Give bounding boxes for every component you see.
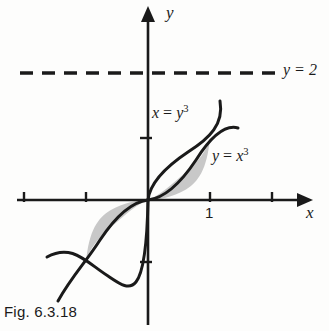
curve-label-x-equals-y-cubed: x = y3: [152, 103, 189, 122]
curve-label-exponent: 3: [243, 146, 248, 157]
shaded-region-quadrant-three: [86, 200, 148, 262]
y-axis-label: y: [166, 3, 174, 23]
figure-container: y x y = 2 x = y3 y = x3 1 Fig. 6.3.18: [0, 0, 329, 331]
y-axis: [141, 6, 155, 325]
curve-label-equals: =: [159, 104, 176, 121]
curve-label-y-equals-x-cubed: y = x3: [212, 146, 249, 165]
asymptote-label: y = 2: [283, 61, 317, 79]
x-axis-tick-label-1: 1: [205, 204, 213, 221]
shaded-region-quadrant-one: [148, 138, 210, 200]
x-axis-label: x: [306, 203, 314, 223]
curve-label-equals: =: [219, 147, 236, 164]
curve-x-equals-y-cubed: [47, 101, 221, 286]
cubic-curves-plot: [0, 0, 329, 331]
curve-label-exponent: 3: [183, 103, 188, 114]
figure-caption: Fig. 6.3.18: [4, 303, 77, 320]
